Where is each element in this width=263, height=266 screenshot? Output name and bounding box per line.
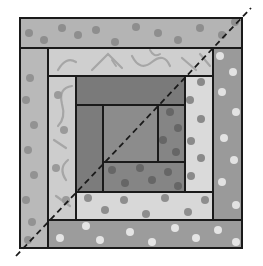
quilt-diagram: Log cabin quilt block with diagonal fold…	[0, 0, 263, 266]
fabric-dot	[166, 108, 174, 116]
fabric-dot	[30, 121, 38, 129]
fabric-dot	[101, 206, 109, 214]
fabric-dot	[197, 78, 205, 86]
ring3-top-strip	[20, 18, 242, 48]
fabric-dot	[187, 172, 195, 180]
fabric-dot	[232, 108, 240, 116]
fabric-dot	[136, 164, 144, 172]
fabric-dot	[60, 126, 68, 134]
fabric-dot	[220, 134, 228, 142]
fabric-dot	[30, 171, 38, 179]
fabric-dot	[26, 74, 34, 82]
fabric-dot	[174, 124, 182, 132]
fabric-dot	[159, 136, 167, 144]
fabric-dot	[84, 194, 92, 202]
ring1-left-strip	[76, 105, 103, 192]
fabric-dot	[54, 91, 62, 99]
fabric-dot	[96, 236, 104, 244]
fabric-dot	[52, 164, 60, 172]
fabric-dot	[218, 88, 226, 96]
fabric-dot	[58, 24, 66, 32]
fabric-dot	[92, 26, 100, 34]
fabric-dot	[22, 96, 30, 104]
fabric-dot	[229, 68, 237, 76]
fabric-dot	[25, 29, 33, 37]
fabric-dot	[197, 154, 205, 162]
log-cabin-block	[0, 0, 263, 266]
ring3-bottom-strip	[48, 220, 242, 248]
fabric-dot	[232, 201, 240, 209]
fabric-dot	[108, 166, 116, 174]
ring1-top-strip	[76, 76, 185, 105]
fabric-dot	[132, 23, 140, 31]
fabric-dot	[230, 156, 238, 164]
fabric-dot	[201, 196, 209, 204]
fabric-dot	[192, 234, 200, 242]
fabric-dot	[82, 222, 90, 230]
fabric-dot	[24, 146, 32, 154]
fabric-dot	[214, 226, 222, 234]
fabric-dot	[56, 234, 64, 242]
fabric-dot	[154, 29, 162, 37]
fabric-dot	[184, 208, 192, 216]
fabric-dot	[126, 228, 134, 236]
fabric-dot	[218, 178, 226, 186]
fabric-dot	[148, 176, 156, 184]
fabric-dot	[40, 36, 48, 44]
fabric-dot	[111, 38, 119, 46]
fabric-dot	[121, 179, 129, 187]
fabric-dot	[232, 238, 240, 246]
ring1-bottom-strip	[103, 162, 185, 192]
fabric-dot	[186, 96, 194, 104]
fabric-dot	[174, 182, 182, 190]
fabric-dot	[74, 31, 82, 39]
fabric-dot	[148, 238, 156, 246]
fabric-dot	[22, 196, 30, 204]
fabric-dot	[187, 137, 195, 145]
fabric-dot	[120, 196, 128, 204]
fabric-dot	[197, 115, 205, 123]
fabric-dot	[164, 168, 172, 176]
fabric-dot	[28, 218, 36, 226]
fabric-dot	[171, 224, 179, 232]
fabric-dot	[142, 210, 150, 218]
fabric-dot	[161, 194, 169, 202]
fabric-dot	[216, 52, 224, 60]
fabric-dot	[196, 24, 204, 32]
fabric-dot	[172, 148, 180, 156]
fabric-dot	[174, 36, 182, 44]
ring3-right-strip	[213, 48, 242, 220]
